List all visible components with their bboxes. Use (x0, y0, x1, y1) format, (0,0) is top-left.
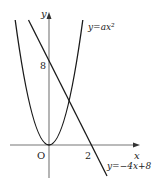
y-tick-label-8: 8 (40, 60, 46, 71)
origin-label: O (37, 150, 45, 161)
x-tick-label-2: 2 (85, 150, 91, 161)
x-axis-arrow-icon (133, 143, 140, 148)
graph-figure: y x O 2 8 y=ax² y=−4x+8 (0, 0, 167, 186)
y-axis-label: y (40, 8, 47, 19)
parabola-equation-label: y=ax² (87, 22, 115, 32)
line-equation-label: y=−4x+8 (106, 161, 152, 171)
x-axis-label: x (134, 150, 140, 161)
y-axis-arrow-icon (47, 12, 52, 19)
axes (10, 12, 140, 178)
